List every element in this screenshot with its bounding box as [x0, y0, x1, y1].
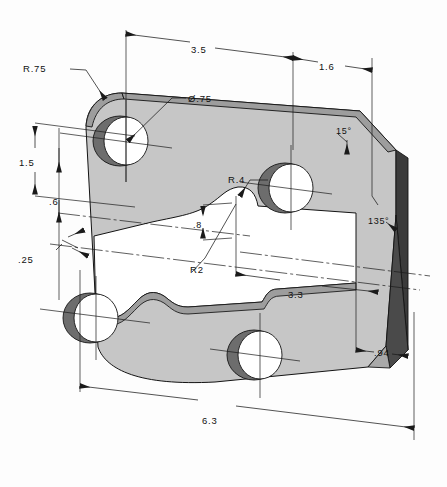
- dimension-label-slot-radius: R.4: [228, 174, 245, 185]
- dimension-label-left-mid: .6: [49, 196, 59, 207]
- dimension-left-mid: .6: [49, 128, 59, 300]
- dimension-label-step-radius: R2: [190, 264, 204, 275]
- dimension-label-top-overall: 3.5: [191, 44, 207, 55]
- dimension-label-right-lower: .94: [374, 347, 390, 358]
- dimension-corner-radius: R.75: [23, 63, 105, 99]
- drawing-svg: 3.5 1.6 R.75 Ø.75 1.5: [0, 0, 447, 487]
- dimension-label-hole-diameter: Ø.75: [188, 93, 212, 104]
- technical-drawing-canvas: 3.5 1.6 R.75 Ø.75 1.5: [0, 0, 447, 487]
- dimension-label-left-upper: 1.5: [19, 157, 35, 168]
- dimension-label-slot-offset: .8: [193, 220, 202, 230]
- dimension-label-angle-top: 15°: [336, 126, 352, 136]
- dimension-label-top-right: 1.6: [319, 61, 335, 72]
- dimension-label-angle-corner: 135°: [368, 216, 389, 226]
- dimension-label-thickness: .25: [18, 254, 34, 265]
- dimension-thickness: .25: [18, 230, 88, 265]
- dimension-label-slot-length: 3.3: [288, 289, 304, 300]
- dimension-label-corner-radius: R.75: [23, 63, 46, 74]
- dimension-label-bottom-overall: 6.3: [202, 415, 218, 426]
